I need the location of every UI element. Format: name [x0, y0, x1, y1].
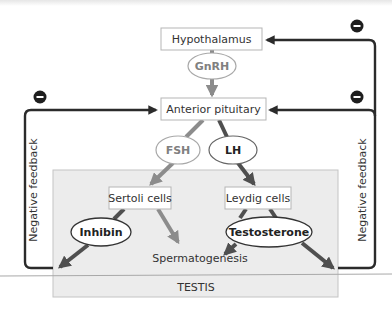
hypothalamus-label: Hypothalamus — [172, 33, 252, 46]
right-feedback-label: Negative feedback — [356, 138, 369, 242]
spermatogenesis-label: Spermatogenesis — [152, 252, 248, 265]
testis-region: TESTIS — [0, 170, 392, 297]
hormone-diagram: TESTIS Negative feedback Negative feedba… — [0, 0, 392, 312]
leydig-cells-label: Leydig cells — [226, 192, 291, 205]
inhibin-oval: Inhibin — [71, 218, 131, 246]
arrow-pituitary-lh — [219, 120, 227, 137]
minus-icon-left — [34, 91, 47, 104]
anterior-pituitary-box: Anterior pituitary — [161, 98, 266, 120]
gnrh-oval: GnRH — [188, 53, 236, 79]
gnrh-label: GnRH — [195, 60, 230, 73]
left-feedback-label: Negative feedback — [27, 138, 40, 242]
inhibin-label: Inhibin — [79, 226, 122, 239]
sertoli-cells-label: Sertoli cells — [108, 192, 172, 205]
minus-icon-top-right — [351, 20, 364, 33]
fsh-oval: FSH — [156, 136, 200, 164]
testis-label: TESTIS — [176, 281, 215, 294]
testosterone-label: Testosterone — [229, 226, 309, 239]
minus-icon-mid-right — [351, 91, 364, 104]
leydig-cells-box: Leydig cells — [225, 187, 291, 209]
sertoli-cells-box: Sertoli cells — [108, 187, 172, 209]
lh-oval: LH — [209, 136, 257, 164]
testosterone-oval: Testosterone — [226, 217, 312, 247]
anterior-pituitary-label: Anterior pituitary — [166, 103, 261, 116]
arrow-pituitary-fsh — [186, 120, 203, 137]
hypothalamus-box: Hypothalamus — [161, 28, 262, 50]
lh-label: LH — [225, 144, 241, 157]
fsh-label: FSH — [166, 144, 191, 157]
